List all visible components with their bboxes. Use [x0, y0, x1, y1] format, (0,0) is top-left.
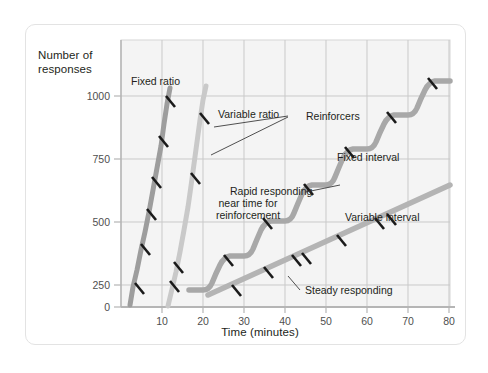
- y-tick-label-250: 250: [92, 279, 110, 291]
- annotation-fixed-interval: Fixed interval: [337, 151, 399, 163]
- y-tick-label-750: 750: [92, 153, 110, 165]
- chart-svg: 1000 750 500 250 0 10 20 30 40 50 60 70 …: [0, 0, 488, 373]
- annotation-rapid-line1: Rapid responding: [230, 185, 312, 197]
- y-tick-label-0: 0: [104, 301, 110, 313]
- annotation-reinforcers: Reinforcers: [306, 110, 360, 122]
- x-tick-label-70: 70: [402, 315, 414, 327]
- y-tick-label-500: 500: [92, 216, 110, 228]
- figure-container: Number of responses Time (minutes): [0, 0, 488, 373]
- x-tick-label-20: 20: [197, 315, 209, 327]
- x-tick-label-30: 30: [238, 315, 250, 327]
- y-tick-label-1000: 1000: [87, 90, 111, 102]
- x-tick-label-60: 60: [361, 315, 373, 327]
- annotation-steady-responding: Steady responding: [305, 284, 393, 296]
- annotation-variable-ratio: Variable ratio: [218, 108, 279, 120]
- annotation-rapid-line3: reinforcement: [216, 209, 280, 221]
- x-tick-label-10: 10: [156, 315, 168, 327]
- x-tick-label-80: 80: [443, 315, 455, 327]
- annotation-fixed-ratio: Fixed ratio: [131, 75, 180, 87]
- x-tick-label-50: 50: [320, 315, 332, 327]
- annotation-variable-interval: Variable interval: [345, 211, 420, 223]
- x-tick-label-40: 40: [279, 315, 291, 327]
- y-tick-marks: [114, 96, 121, 307]
- annotation-rapid-line2: near time for: [219, 197, 278, 209]
